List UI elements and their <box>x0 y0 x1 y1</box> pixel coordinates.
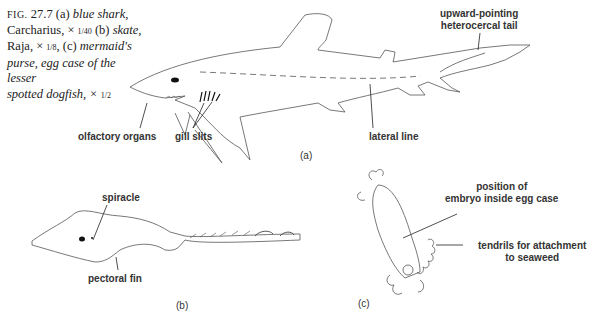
skate-drawing <box>32 205 300 270</box>
label-embryo-line1: position of <box>445 181 558 193</box>
panel-a-label: (a) <box>300 150 312 162</box>
label-tail: upward-pointing heterocercal tail <box>440 8 518 32</box>
label-olfactory-organs: olfactory organs <box>78 131 156 143</box>
panel-c-label: (c) <box>358 298 370 310</box>
label-embryo-line2: embryo inside egg case <box>445 193 558 205</box>
label-tail-line2: heterocercal tail <box>440 20 518 32</box>
label-lateral-line: lateral line <box>369 131 418 143</box>
label-tendrils: tendrils for attachment to seaweed <box>478 240 586 264</box>
label-tail-line1: upward-pointing <box>440 8 518 20</box>
label-tendrils-line2: to seaweed <box>478 252 586 264</box>
panel-b-label: (b) <box>176 300 188 312</box>
illustrations <box>0 0 593 317</box>
label-embryo-position: position of embryo inside egg case <box>445 181 558 205</box>
label-tendrils-line1: tendrils for attachment <box>478 240 586 252</box>
label-gill-slits: gill slits <box>175 131 212 143</box>
label-spiracle: spiracle <box>102 192 140 204</box>
label-pectoral-fin: pectoral fin <box>88 273 142 285</box>
